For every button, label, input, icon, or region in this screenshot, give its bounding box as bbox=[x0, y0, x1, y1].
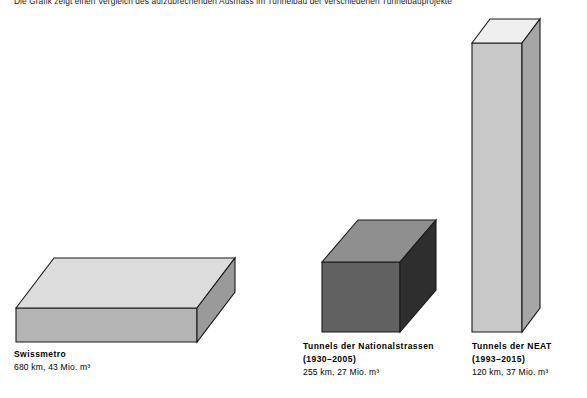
bar-swissmetro-front bbox=[16, 308, 197, 342]
caption-neat-stats: 120 km, 37 Mio. m³ bbox=[472, 366, 552, 379]
caption-swissmetro: Swissmetro 680 km, 43 Mio. m³ bbox=[14, 348, 90, 374]
caption-nationalstrassen: Tunnels der Nationalstrassen (1930–2005)… bbox=[303, 340, 434, 379]
bar-swissmetro bbox=[16, 258, 235, 342]
caption-neat: Tunnels der NEAT (1993–2015) 120 km, 37 … bbox=[472, 340, 552, 379]
bar-nationalstrassen-front bbox=[322, 262, 400, 332]
caption-swissmetro-title: Swissmetro bbox=[14, 348, 90, 361]
caption-neat-title: Tunnels der NEAT bbox=[472, 340, 552, 353]
bar-nationalstrassen bbox=[322, 220, 436, 332]
caption-nationalstrassen-stats: 255 km, 27 Mio. m³ bbox=[303, 366, 434, 379]
caption-nationalstrassen-period: (1930–2005) bbox=[303, 353, 434, 366]
caption-nationalstrassen-title: Tunnels der Nationalstrassen bbox=[303, 340, 434, 353]
bar-neat-side bbox=[522, 19, 540, 332]
caption-neat-period: (1993–2015) bbox=[472, 353, 552, 366]
caption-swissmetro-stats: 680 km, 43 Mio. m³ bbox=[14, 361, 90, 374]
bar-neat-front bbox=[472, 43, 522, 332]
chart-figure: Die Grafik zeigt einen Vergleich des auf… bbox=[0, 0, 587, 398]
bar-neat bbox=[472, 19, 540, 332]
volume-blocks-svg bbox=[0, 0, 587, 398]
